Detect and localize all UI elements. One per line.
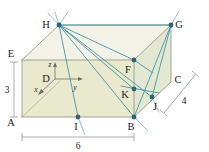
dot-K — [132, 87, 137, 92]
label-vertex-H: H — [42, 19, 50, 30]
dot-J — [150, 95, 155, 100]
dot-F — [132, 58, 137, 63]
label-dimension-width: 6 — [76, 141, 81, 151]
label-axis-z: z — [48, 60, 52, 69]
label-axis-x: x — [33, 85, 38, 94]
ray-below-I — [78, 117, 85, 135]
geometry-diagram-svg: A B C D E F G H I J K z y x 3 6 4 — [0, 0, 209, 152]
label-axis-y: y — [72, 83, 77, 92]
label-dimension-height: 3 — [5, 85, 10, 95]
geometry-figure-root: A B C D E F G H I J K z y x 3 6 4 — [0, 0, 209, 152]
ray-below-B — [134, 117, 147, 130]
dot-B — [132, 115, 137, 120]
label-vertex-F: F — [125, 64, 131, 75]
label-vertex-K: K — [121, 89, 129, 100]
dim-depth-cap-top — [192, 71, 199, 77]
dot-H — [57, 23, 62, 28]
label-dimension-depth: 4 — [182, 96, 187, 106]
dot-G — [169, 23, 174, 28]
label-vertex-D: D — [42, 73, 50, 84]
label-vertex-B: B — [127, 121, 134, 132]
label-vertex-E: E — [8, 48, 14, 59]
label-vertex-A: A — [7, 117, 15, 128]
label-vertex-I: I — [74, 121, 78, 132]
face-front — [22, 60, 134, 117]
dot-I — [76, 115, 81, 120]
label-vertex-J: J — [153, 101, 157, 112]
label-vertex-C: C — [174, 74, 181, 85]
label-vertex-G: G — [175, 19, 183, 30]
